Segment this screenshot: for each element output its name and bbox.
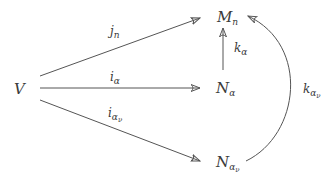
label-i-alpha: iα	[110, 70, 120, 86]
label-i-alpha-nu: iαν	[108, 106, 123, 124]
arrow-i-alpha-nu	[40, 100, 200, 161]
node-V: V	[14, 80, 27, 98]
node-N-alpha: Nα	[215, 79, 235, 98]
label-k-alpha-nu: kαν	[303, 82, 321, 100]
arrow-jn	[40, 18, 200, 76]
arrow-k-alpha-nu-curved	[246, 16, 291, 161]
node-N-alpha-nu: Nαν	[215, 153, 240, 174]
label-k-alpha: kα	[234, 41, 247, 57]
commutative-diagram: V Mn Nα Nαν jn iα iαν kα kαν	[0, 0, 336, 185]
node-M-n: Mn	[216, 8, 238, 27]
label-jn: jn	[107, 24, 120, 40]
